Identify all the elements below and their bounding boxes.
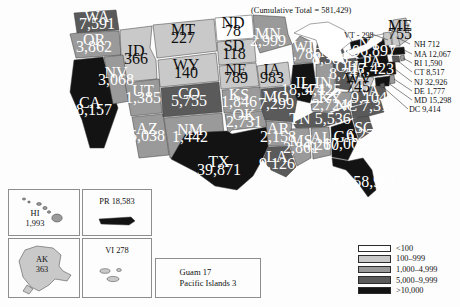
legend-swatch-4 bbox=[358, 287, 391, 295]
inset-pacific-islands: Guam 17 Pacific Islands 3 bbox=[155, 258, 261, 298]
callout-NH: NH 712 bbox=[414, 40, 440, 49]
legend-item-4: >10,000 bbox=[358, 285, 437, 296]
legend-item-0: <100 bbox=[358, 243, 437, 254]
callout-RI: RI 1,590 bbox=[414, 59, 442, 68]
choropleth-map: (Cumulative Total = 581,429) bbox=[0, 0, 460, 307]
legend-swatch-1 bbox=[358, 255, 391, 263]
inset-hawaii-name: HI bbox=[9, 209, 61, 219]
callout-DE: DE 1,777 bbox=[414, 87, 445, 96]
inset-virgin-islands: VI 278 bbox=[82, 238, 152, 298]
legend-item-1: 100–999 bbox=[358, 254, 437, 265]
pacific-islands-label: Pacific Islands 3 bbox=[180, 278, 237, 289]
callout-DC: DC 9,414 bbox=[409, 105, 440, 114]
legend-label-2: 1,000–4,999 bbox=[396, 265, 437, 274]
legend-label-4: >10,000 bbox=[396, 286, 424, 295]
inset-alaska-value: 363 bbox=[9, 265, 75, 275]
inset-hawaii-value: 1,993 bbox=[9, 219, 61, 229]
callout-MD: MD 15,298 bbox=[414, 96, 451, 105]
inset-hawaii: HI 1,993 bbox=[8, 189, 80, 236]
legend-label-1: 100–999 bbox=[396, 254, 425, 263]
legend-item-2: 1,000–4,999 bbox=[358, 264, 437, 275]
callout-MA: MA 12,067 bbox=[414, 50, 451, 59]
legend-item-3: 5,000–9,999 bbox=[358, 275, 437, 286]
callout-VT: VT - 298 bbox=[344, 31, 374, 40]
guam-label: Guam 17 bbox=[180, 267, 237, 278]
inset-puerto-rico: PR 18,583 bbox=[82, 189, 152, 236]
callout-NJ: NJ 32,926 bbox=[414, 78, 447, 87]
inset-virgin-islands-label: VI 278 bbox=[83, 246, 151, 256]
pacific-islands-text: Guam 17 Pacific Islands 3 bbox=[180, 267, 237, 289]
inset-alaska: AK 363 bbox=[8, 238, 80, 298]
callout-CT: CT 8,517 bbox=[414, 68, 444, 77]
legend-label-0: <100 bbox=[396, 244, 413, 253]
inset-puerto-rico-label: PR 18,583 bbox=[83, 197, 151, 207]
inset-alaska-name: AK bbox=[9, 255, 75, 265]
legend-swatch-2 bbox=[358, 266, 391, 274]
legend-swatch-0 bbox=[358, 245, 391, 253]
map-legend: <100 100–999 1,000–4,999 5,000–9,999 >10… bbox=[358, 243, 437, 296]
legend-label-3: 5,000–9,999 bbox=[396, 276, 437, 285]
legend-swatch-3 bbox=[358, 276, 391, 284]
